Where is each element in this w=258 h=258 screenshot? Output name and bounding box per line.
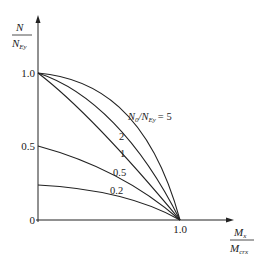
x-axis-arrow-icon [226, 218, 234, 223]
x-label-denominator: Mcrx [229, 242, 249, 256]
curve-label-1: 1 [120, 148, 125, 159]
curve-label-05: 0.5 [113, 167, 126, 178]
y-tick-1: 1.0 [21, 67, 35, 79]
y-label-numerator: N [15, 21, 24, 33]
x-label-numerator: Mx [233, 226, 247, 240]
origin-tick: 0 [30, 214, 36, 226]
interaction-chart: N NEy Mx Mcrx 1.0 0.5 0 1.0 N0/NEy= 5 2 … [0, 0, 258, 258]
curve-n0-1 [38, 73, 180, 220]
y-tick-05: 0.5 [21, 140, 35, 152]
curve-label-02: 0.2 [110, 185, 123, 196]
y-axis-arrow-icon [36, 15, 41, 23]
y-label-denominator: NEy [11, 37, 28, 51]
curve-label-2: 2 [119, 131, 124, 142]
curve-n0-5 [38, 73, 180, 220]
curve-n0-2 [38, 73, 180, 220]
x-tick-1: 1.0 [173, 223, 187, 235]
